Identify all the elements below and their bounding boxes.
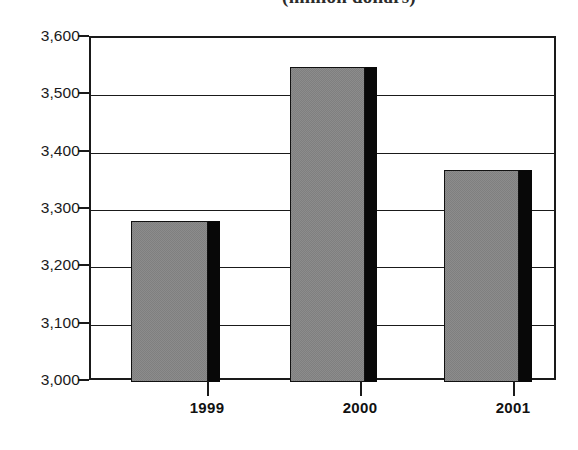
bar-shadow <box>365 67 377 382</box>
x-axis-tick-mark <box>513 381 515 396</box>
bar-shadow <box>519 170 532 382</box>
bar-shadow <box>208 221 220 382</box>
y-axis: 3,6003,5003,4003,3003,2003,1003,000 <box>0 0 80 450</box>
y-axis-tick-mark <box>78 150 89 152</box>
y-axis-tick-label: 3,400 <box>8 142 80 160</box>
y-axis-tick-mark <box>78 92 89 94</box>
y-axis-tick-mark <box>78 379 89 381</box>
y-axis-tick-label: 3,600 <box>8 27 80 45</box>
x-axis-label-2000: 2000 <box>315 399 405 416</box>
bar-2000 <box>290 67 377 382</box>
chart-title-text: (million dollars) <box>0 0 578 8</box>
x-axis-tick-mark <box>207 381 209 396</box>
x-axis-label-1999: 1999 <box>162 399 252 416</box>
y-axis-tick-mark <box>78 264 89 266</box>
y-axis-tick-label: 3,300 <box>8 199 80 217</box>
plot-area <box>89 36 556 380</box>
y-axis-tick-label: 3,100 <box>8 314 80 332</box>
bar-face <box>444 170 519 382</box>
x-axis-tick-mark <box>360 381 362 396</box>
y-axis-tick-label: 3,000 <box>8 371 80 389</box>
bar-face <box>290 67 365 382</box>
y-axis-tick-mark <box>78 207 89 209</box>
y-axis-tick-mark <box>78 322 89 324</box>
bar-face <box>131 221 208 382</box>
chart-title: (million dollars) <box>0 0 578 8</box>
y-axis-tick-mark <box>78 35 89 37</box>
bar-2001 <box>444 170 532 382</box>
x-axis-label-2001: 2001 <box>468 399 558 416</box>
y-axis-tick-label: 3,200 <box>8 256 80 274</box>
y-axis-tick-label: 3,500 <box>8 84 80 102</box>
bar-1999 <box>131 221 220 382</box>
